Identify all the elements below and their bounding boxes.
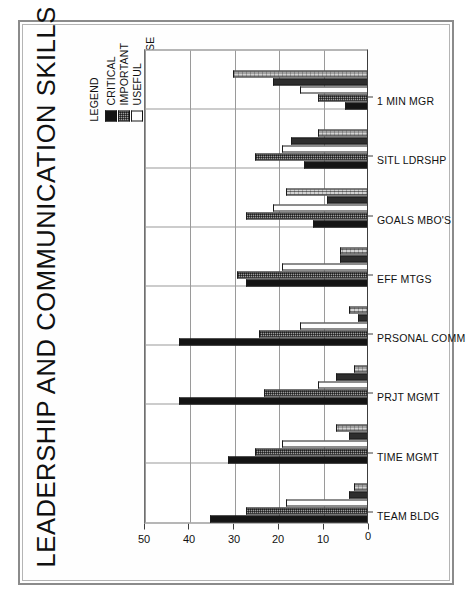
legend-swatch-dotted-grey [118,110,130,121]
bar [300,323,367,330]
bar [233,71,367,78]
legend-swatch-solid-black [105,110,117,121]
bar [246,213,367,220]
plot-area-wrapper [144,49,368,523]
category-tick: PRSONAL COMM [368,286,442,345]
category-tick: PRJT MGMT [368,345,442,404]
category-tick: GOALS MBO'S [368,168,442,227]
legend-heading: LEGEND [88,77,100,121]
bar [318,382,367,389]
category-tick-label: PRJT MGMT [377,391,440,403]
legend-entry: USEFUL [130,36,143,121]
bar [340,248,367,255]
value-tick-mark [323,523,324,529]
category-tick-label: GOALS MBO'S [377,213,451,225]
value-tick-mark [144,523,145,529]
bar [354,484,367,491]
value-tick-mark [188,523,189,529]
category-tick-mark [368,96,373,97]
bar [336,374,367,381]
bar-group [145,286,367,345]
bar [282,441,367,448]
bar [264,390,367,397]
category-tick: TIME MGMT [368,405,442,464]
category-tick-mark [368,333,373,334]
category-tick-label: 1 MIN MGR [377,94,434,106]
category-tick-mark [368,393,373,394]
bar-group [145,345,367,404]
bar [282,264,367,271]
bar [255,154,367,161]
bar [300,87,367,94]
bar [273,205,367,212]
category-tick-label: SITL LDRSHP [377,154,447,166]
bar [318,130,367,137]
plot-area [144,49,368,523]
bar [318,95,367,102]
bar [246,508,367,515]
value-tick-label: 40 [183,533,195,545]
bar [282,146,367,153]
page-title: LEADERSHIP AND COMMUNICATION SKILLS [32,38,61,567]
category-tick: SITL LDRSHP [368,108,442,167]
bar [313,221,367,228]
category-axis-labels: TEAM BLDGTIME MGMTPRJT MGMTPRSONAL COMME… [368,49,442,523]
value-tick-mark [368,523,369,529]
bar-group [145,227,367,286]
rotated-chart-canvas: LEADERSHIP AND COMMUNICATION SKILLS LEGE… [26,30,446,575]
category-tick-label: TIME MGMT [377,450,439,462]
category-tick-label: EFF MTGS [377,272,432,284]
bar [259,331,367,338]
legend-entry-label: CRITICAL [105,56,117,105]
bar-group [145,463,367,522]
bar-group [145,50,367,109]
category-tick-label: PRSONAL COMM [377,331,465,343]
value-tick-label: 10 [317,533,329,545]
value-axis-ticks: 01020304050 [144,523,368,575]
bar [237,272,367,279]
legend-entry: CRITICAL [104,36,117,121]
legend-entry-label: IMPORTANT [118,42,130,105]
bar [354,366,367,373]
bar [349,492,367,499]
category-tick-label: TEAM BLDG [377,509,439,521]
bar [349,307,367,314]
bar [291,138,367,145]
value-tick-label: 0 [365,530,371,542]
bar [336,425,367,432]
legend-entry: IMPORTANT [117,36,130,121]
value-tick-label: 20 [272,533,284,545]
bar [179,398,367,405]
legend-entry-label: USEFUL [131,62,143,105]
category-tick: EFF MTGS [368,227,442,286]
bar [228,457,367,464]
bar [358,315,367,322]
bar-group [145,404,367,463]
bar [340,256,367,263]
value-tick-mark [233,523,234,529]
category-tick: TEAM BLDG [368,464,442,523]
bar [286,500,367,507]
value-tick-mark [278,523,279,529]
bar [210,516,367,523]
bar-group [145,109,367,168]
category-tick-mark [368,274,373,275]
category-tick-mark [368,511,373,512]
bar [255,449,367,456]
bar [286,189,367,196]
category-tick-mark [368,215,373,216]
slide-page: LEADERSHIP AND COMMUNICATION SKILLS LEGE… [0,0,472,605]
bar [304,162,367,169]
category-tick-mark [368,156,373,157]
bar [246,280,367,287]
bar [345,103,367,110]
bar [179,339,367,346]
bar [327,197,367,204]
value-tick-label: 50 [138,533,150,545]
bar [273,79,367,86]
bar-group [145,168,367,227]
bar [349,433,367,440]
value-tick-label: 30 [227,533,239,545]
bar-groups [145,50,367,522]
legend-swatch-white [131,110,143,121]
